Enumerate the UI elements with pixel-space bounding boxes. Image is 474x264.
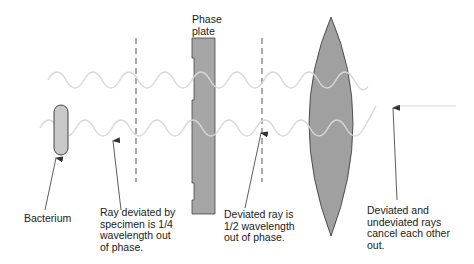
bacterium-label: Bacterium [24,213,71,225]
arrow-ray-deviated [113,141,121,210]
deviated-half-label: Deviated ray is 1/2 wavelength out of ph… [224,209,295,244]
arrow-cancel [393,108,397,200]
arrow-deviated-half [245,133,261,208]
phase-plate-label: Phase plate [192,14,222,37]
cancel-label: Deviated and undeviated rays cancel each… [367,205,450,251]
lens [309,17,353,236]
phase-plate [192,38,215,214]
bacterium [54,105,68,155]
arrow-bacterium [45,158,56,210]
ray-deviated-label: Ray deviated by specimen is 1/4 waveleng… [100,207,175,253]
